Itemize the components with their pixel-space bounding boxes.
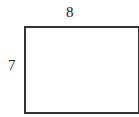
height-label: 7 — [8, 58, 16, 73]
rectangle-shape — [24, 26, 139, 114]
width-label: 8 — [66, 5, 74, 20]
